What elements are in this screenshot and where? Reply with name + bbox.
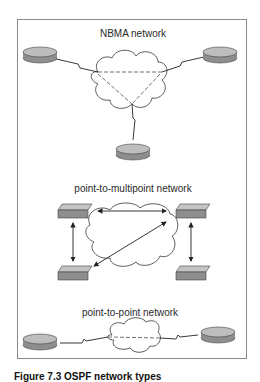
- switch-icon-br: [176, 266, 210, 280]
- switch-icon-bl: [58, 266, 92, 280]
- router-icon-right: [203, 47, 237, 63]
- router-icon-bottom: [116, 144, 150, 160]
- switch-icon-tl: [58, 204, 92, 218]
- nbma-cloud-icon: [91, 50, 167, 108]
- router-icon-p2p-right: [201, 327, 235, 343]
- switch-icon-tr: [176, 204, 210, 218]
- figure-caption: Figure 7.3 OSPF network types: [14, 371, 161, 382]
- p2p-cloud-icon: [108, 318, 161, 353]
- router-icon-left: [23, 47, 57, 63]
- router-icon-p2p-left: [23, 334, 57, 350]
- p2mp-cloud-icon: [86, 203, 178, 266]
